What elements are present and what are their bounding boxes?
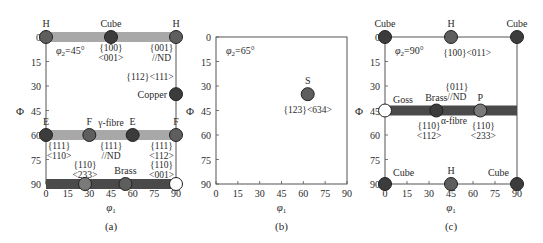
texture-point-label: Cube [488,167,510,178]
texture-point-label: Cube [506,18,528,29]
annotation-line: {110} [150,160,173,170]
annotation-line: {112}<111> [126,72,173,82]
x-axis-title: φ1 [446,201,456,215]
texture-point [379,31,392,44]
x-tick-label: 15 [63,188,73,199]
y-tick-label: 60 [201,130,211,141]
panel-c: 01530456075900153045607590φ1Φ(c)φ2=90°{1… [355,18,528,233]
texture-point-label: Brass [425,92,447,103]
texture-point [430,104,443,117]
texture-annotation: {110}<112> [417,121,442,141]
texture-annotation: {110}<001> [149,160,174,180]
texture-point [40,129,53,142]
annotation-line: <001> [99,53,124,63]
texture-point [379,104,392,117]
y-tick-label: 30 [201,81,211,92]
alpha-fibre [385,106,517,116]
texture-point-label: Goss [393,94,413,105]
texture-point [105,31,118,44]
texture-point-label: Copper [138,89,168,100]
x-tick-label: 15 [402,188,412,199]
x-tick-label: 60 [298,188,308,199]
texture-point [119,178,132,191]
annotation-line: {001} [150,43,173,53]
annotation-line: γ-fibre [97,118,123,128]
texture-point-label: S [305,75,311,86]
phi2-label: φ2=90° [395,45,424,58]
texture-annotation: {123}<634> [284,105,332,115]
texture-point-label: H [42,18,49,29]
texture-point [170,88,183,101]
x-tick-label: 30 [424,188,434,199]
annotation-line: <112> [149,151,174,161]
texture-annotation: {111}<110> [47,141,72,161]
x-tick-label: 75 [490,188,500,199]
y-tick-label: 30 [370,81,380,92]
texture-point-label: Cube [393,167,415,178]
texture-point-label: E [130,116,136,127]
annotation-line: {011} [445,82,468,92]
texture-point-label: E [43,116,49,127]
annotation-line: {111} [150,141,173,151]
texture-point [301,88,314,101]
texture-annotation: {110}<233> [471,121,496,141]
texture-point [170,129,183,142]
y-axis-title: Φ [186,105,194,117]
annotation-line: α-fibre [441,116,467,126]
x-tick-label: 30 [255,188,265,199]
alpha-fibre-bottom [46,179,176,189]
phi2-label: φ2=45° [56,45,85,58]
y-axis-title: Φ [16,105,24,117]
x-tick-label: 75 [320,188,330,199]
annotation-line: <233> [471,131,496,141]
annotation-line: //ND [152,53,171,63]
texture-point [79,178,92,191]
y-tick-label: 0 [206,32,211,43]
y-axis-title: Φ [355,105,363,117]
texture-point-label: F [87,116,93,127]
texture-point-label: Brass [114,165,136,176]
annotation-line: <110> [47,151,72,161]
x-tick-label: 45 [106,188,116,199]
texture-point [474,104,487,117]
y-tick-label: 15 [31,57,41,68]
y-tick-label: 30 [31,81,41,92]
gamma-fibre [46,130,176,140]
x-tick-label: 75 [149,188,159,199]
texture-point [511,178,524,191]
panel-b: 01530456075900153045607590φ1Φ(b)φ2=65°{1… [186,32,352,233]
texture-point [40,31,53,44]
y-tick-label: 45 [201,106,211,117]
texture-point [511,31,524,44]
texture-point [170,31,183,44]
y-tick-label: 15 [370,57,380,68]
texture-point [445,31,458,44]
texture-annotation: {112}<111> [126,72,173,82]
texture-annotation: γ-fibre [97,118,123,128]
texture-point-label: H [447,165,454,176]
texture-point-label: Cube [100,18,122,29]
texture-annotation: {111}//ND [100,141,123,161]
annotation-line: <001> [149,170,174,180]
y-tick-label: 75 [201,155,211,166]
panel-caption: (b) [275,220,288,233]
x-axis-title: φ1 [106,201,116,215]
x-tick-label: 60 [468,188,478,199]
annotation-line: {111} [48,141,71,151]
texture-point [83,129,96,142]
annotation-line: {100} [99,43,122,53]
texture-point-label: H [447,18,454,29]
annotation-line: <112> [417,131,442,141]
annotation-line: {100}<011> [443,48,491,58]
odf-section-figure: 01530456075900153045607590φ1Φ(a)φ2=45°{1… [0,0,543,243]
texture-annotation: {100}<001> [99,43,124,63]
y-tick-label: 15 [201,57,211,68]
y-tick-label: 90 [31,179,41,190]
x-tick-label: 90 [342,188,352,199]
panel-caption: (a) [105,220,118,233]
texture-point-label: Cube [374,18,396,29]
annotation-line: {123}<634> [284,105,332,115]
x-tick-label: 45 [277,188,287,199]
phi2-label: φ2=65° [226,45,255,58]
y-tick-label: 60 [370,130,380,141]
